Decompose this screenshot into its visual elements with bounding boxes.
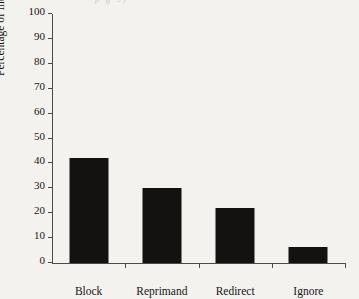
bar-slot: [125, 14, 198, 263]
bar: [142, 188, 181, 263]
y-tick-label: 10: [34, 230, 45, 241]
x-tick-mark: [125, 263, 126, 268]
y-tick-label: 50: [34, 131, 45, 142]
x-tick-mark: [272, 263, 273, 268]
x-tick-mark: [345, 263, 346, 268]
bar: [69, 158, 108, 263]
y-tick-label: 30: [34, 180, 45, 191]
y-axis-title: Percentage of intervals: [0, 0, 6, 76]
cropped-caption-fragment: p g 9): [95, 0, 275, 6]
y-tick-label: 90: [34, 31, 45, 42]
x-tick-mark: [199, 263, 200, 268]
y-tick-label: 20: [34, 205, 45, 216]
x-axis-label: Ignore: [258, 285, 358, 297]
y-tick-label: 40: [34, 155, 45, 166]
y-tick-label: 0: [40, 255, 46, 266]
plot-area: 0102030405060708090100 BlockReprimandRed…: [52, 14, 345, 263]
y-tick-label: 80: [34, 56, 45, 67]
bar: [216, 208, 255, 263]
bar-slot: [199, 14, 272, 263]
bar-series: [52, 14, 345, 263]
y-tick-label: 70: [34, 81, 45, 92]
bar-slot: [52, 14, 125, 263]
bar-chart-figure: p g 9) Percentage of intervals 010203040…: [0, 0, 359, 299]
bar-slot: [272, 14, 345, 263]
y-tick-label: 60: [34, 106, 45, 117]
y-tick-label: 100: [29, 6, 46, 17]
bar: [289, 247, 328, 263]
